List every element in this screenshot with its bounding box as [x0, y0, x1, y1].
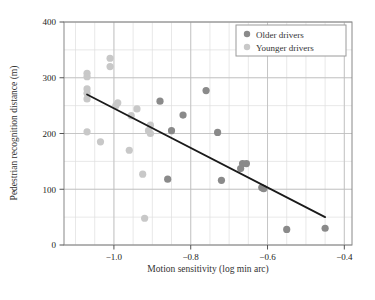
- data-point-younger-driver: [83, 128, 90, 135]
- y-tick-label: 200: [43, 129, 57, 139]
- legend-label-older-drivers: Older drivers: [256, 30, 304, 40]
- data-point-older-driver: [168, 127, 175, 134]
- y-axis-title: Pedestrian recognition distance (m): [9, 66, 20, 201]
- data-point-younger-driver: [141, 215, 148, 222]
- data-point-younger-driver: [133, 105, 140, 112]
- y-tick-label: 300: [43, 73, 57, 83]
- data-point-older-driver: [164, 176, 171, 183]
- y-tick-labels: 0100200300400: [43, 17, 57, 250]
- data-point-older-driver: [214, 129, 221, 136]
- legend-swatch-younger-drivers: [244, 44, 250, 50]
- scatter-plot-figure: −1.0−0.8−0.6−0.4 0100200300400 Motion se…: [0, 0, 375, 300]
- data-point-younger-driver: [97, 138, 104, 145]
- legend: Older drivers Younger drivers: [236, 25, 346, 56]
- x-tick-label: −0.8: [183, 252, 200, 262]
- data-point-younger-driver: [106, 55, 113, 62]
- y-tick-label: 400: [43, 17, 57, 27]
- plot-canvas: −1.0−0.8−0.6−0.4 0100200300400 Motion se…: [0, 0, 375, 300]
- regression-line-segment: [87, 94, 325, 217]
- legend-label-younger-drivers: Younger drivers: [256, 43, 314, 53]
- legend-swatch-older-drivers: [244, 31, 250, 37]
- x-axis-title: Motion sensitivity (log min arc): [147, 264, 268, 275]
- data-point-older-driver: [202, 87, 209, 94]
- data-point-older-driver: [322, 225, 329, 232]
- data-point-older-driver: [179, 112, 186, 119]
- y-tick-label: 100: [43, 185, 57, 195]
- x-tick-label: −0.6: [259, 252, 276, 262]
- data-point-older-driver: [218, 177, 225, 184]
- x-tick-labels: −1.0−0.8−0.6−0.4: [106, 252, 353, 262]
- data-point-younger-driver: [139, 171, 146, 178]
- regression-line: [87, 94, 325, 217]
- data-point-older-driver: [237, 165, 244, 172]
- data-point-younger-driver: [106, 63, 113, 70]
- x-tick-label: −0.4: [336, 252, 353, 262]
- data-series-younger-drivers: [83, 55, 154, 222]
- x-tick-label: −1.0: [106, 252, 123, 262]
- data-point-younger-driver: [147, 130, 154, 137]
- data-point-older-driver: [156, 98, 163, 105]
- data-point-younger-driver: [126, 147, 133, 154]
- data-point-older-driver: [283, 226, 290, 233]
- y-tick-label: 0: [52, 240, 57, 250]
- data-point-younger-driver: [83, 73, 90, 80]
- data-series-older-drivers: [156, 87, 328, 233]
- data-point-older-driver: [243, 160, 250, 167]
